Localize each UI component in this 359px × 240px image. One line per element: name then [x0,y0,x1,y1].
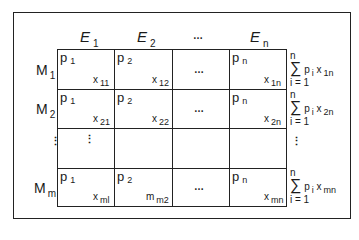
row-sum-2: n ∑ pi x2n i = 1 [290,90,334,127]
sigma-icon: ∑ [290,176,301,193]
grid-line [172,49,173,207]
cell-probability: p2 [117,169,132,185]
cell-vertical-ellipsis: ⋮ [84,136,95,142]
cell-outcome: x1n [264,74,281,88]
column-header-base: E [250,28,260,45]
cell-outcome: x12 [152,74,169,88]
column-header-e2: E2 [137,28,156,49]
cell-probability: pn [232,50,247,66]
row-header-sub: 1 [50,70,56,81]
cell-probability: p1 [60,90,75,106]
sigma-icon: ∑ [290,59,301,76]
cell-probability: pn [232,169,247,185]
cell-outcome: xmn [264,191,284,205]
cell-probability: p2 [117,90,132,106]
column-header-e1: E1 [80,28,99,49]
column-header-sub: 1 [93,38,99,49]
grid-line [229,49,230,207]
row-sum-vdots: ⋮ [291,138,302,144]
cell-outcome: xml [93,191,110,205]
row-header-sub: m [48,188,56,199]
row-header-base: M [36,62,48,78]
row-header-sub: 2 [50,109,56,120]
cell-outcome: mm2 [146,191,169,205]
cell-probability: p2 [117,50,132,66]
cell-outcome: x2n [264,113,281,127]
cell-probability: p1 [60,169,75,185]
ellipsis: … [193,30,202,41]
sum-lower-limit: i = 1 [290,195,336,205]
row-sum-1: n ∑ pi x1n i = 1 [290,51,334,88]
sum-lower-limit: i = 1 [290,78,334,88]
column-header-base: E [80,28,90,45]
row-header-m2: M2 [36,101,55,120]
column-header-base: E [137,28,147,45]
cell-ellipsis: … [194,64,203,75]
row-header-base: M [34,180,46,196]
cell-outcome: x21 [93,113,110,127]
cell-probability: p1 [60,50,75,66]
cell-ellipsis: … [194,181,203,192]
column-header-sub: 2 [150,38,156,49]
grid-line [114,49,115,207]
column-header-ellipsis: … [193,30,202,41]
column-header-en: En [250,28,269,49]
column-header-sub: n [263,38,269,49]
cell-outcome: x11 [93,74,109,88]
cell-outcome: x22 [152,113,169,127]
sigma-icon: ∑ [290,98,301,115]
row-header-m1: M1 [36,62,55,81]
row-header-mm: Mm [34,180,56,199]
row-header-base: M [36,101,48,117]
grid-line [286,49,287,207]
matrix-grid [57,49,287,207]
sum-lower-limit: i = 1 [290,117,334,127]
row-sum-m: n ∑ pi xmn i = 1 [290,168,336,205]
cell-probability: pn [232,90,247,106]
grid-line [57,49,58,207]
cell-ellipsis: … [194,103,203,114]
